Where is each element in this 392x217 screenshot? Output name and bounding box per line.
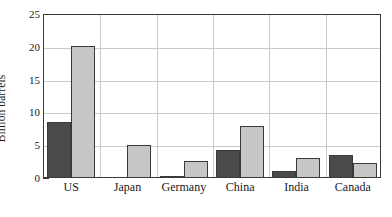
plot-area <box>43 14 381 178</box>
x-tick-label: Canada <box>335 181 371 194</box>
horizontal-gridline <box>44 81 380 82</box>
y-tick-label: 15 <box>29 74 40 85</box>
y-tick-label: 10 <box>29 107 40 118</box>
x-tick-label: US <box>63 181 78 194</box>
vertical-gridline <box>157 15 158 177</box>
y-axis-tick-labels: 0510152025 <box>18 14 40 178</box>
vertical-gridline <box>213 15 214 177</box>
x-axis-tick-labels: USJapanGermanyChinaIndiaCanada <box>43 181 381 201</box>
horizontal-gridline <box>44 113 380 114</box>
y-tick-label: 25 <box>29 9 40 20</box>
y-tick-label: 0 <box>35 173 41 184</box>
x-tick-label: Germany <box>162 181 207 194</box>
horizontal-gridline <box>44 146 380 147</box>
y-tick-major <box>43 178 49 179</box>
vertical-gridline <box>100 15 101 177</box>
y-tick-label: 5 <box>35 140 41 151</box>
x-tick-label: Japan <box>114 181 141 194</box>
x-tick-label: India <box>284 181 309 194</box>
horizontal-gridline <box>44 48 380 49</box>
x-tick-label: China <box>226 181 255 194</box>
vertical-gridline <box>269 15 270 177</box>
y-tick-label: 20 <box>29 41 40 52</box>
y-axis-title: Billion barrels <box>0 0 18 217</box>
bar-chart: Billion barrels 0510152025 USJapanGerman… <box>0 0 392 217</box>
vertical-gridline <box>326 15 327 177</box>
